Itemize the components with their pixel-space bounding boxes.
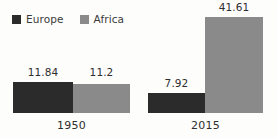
value-label-1950-europe: 11.84 bbox=[13, 67, 73, 78]
category-label-1950: 1950 bbox=[13, 120, 130, 131]
bar-2015-europe[interactable] bbox=[148, 93, 205, 113]
value-label-1950-africa: 11.2 bbox=[73, 67, 130, 78]
value-label-2015-africa: 41.61 bbox=[205, 2, 263, 13]
bar-chart: Europe Africa 11.84 11.2 7.92 41.61 1950… bbox=[0, 0, 277, 138]
bar-2015-africa[interactable] bbox=[205, 17, 263, 113]
bar-1950-africa[interactable] bbox=[73, 84, 130, 113]
value-label-2015-europe: 7.92 bbox=[148, 78, 205, 89]
category-label-2015: 2015 bbox=[148, 120, 263, 131]
plot-area: 11.84 11.2 7.92 41.61 1950 2015 bbox=[0, 0, 277, 138]
bar-1950-europe[interactable] bbox=[13, 82, 73, 113]
